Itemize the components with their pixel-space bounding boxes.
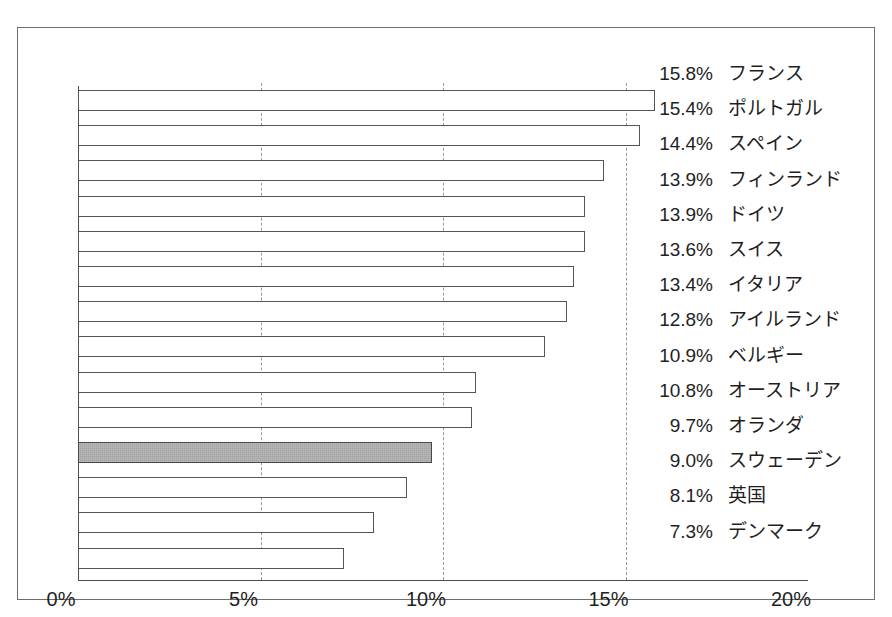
- x-tick-15%: 15%: [588, 588, 628, 611]
- bar: [78, 301, 567, 322]
- chart-figure: 0%5%10%15%20% 15.8%フランス15.4%ポルトガル14.4%スペ…: [0, 0, 892, 617]
- bar-value-label: 14.4%: [618, 126, 713, 161]
- bar-value-label: 8.1%: [618, 478, 713, 513]
- bar: [78, 125, 640, 146]
- bar-category-label: ドイツ: [728, 197, 785, 232]
- bar: [78, 90, 655, 111]
- bar: [78, 160, 604, 181]
- bar-value-label: 13.9%: [618, 197, 713, 232]
- x-tick-10%: 10%: [406, 588, 446, 611]
- bar-highlighted: [78, 442, 432, 463]
- x-tick-5%: 5%: [229, 588, 258, 611]
- bar-value-label: 10.8%: [618, 373, 713, 408]
- bar-value-label: 9.0%: [618, 443, 713, 478]
- bar: [78, 196, 585, 217]
- bar-category-label: フランス: [728, 56, 804, 91]
- bar-value-label: 9.7%: [618, 408, 713, 443]
- bar-value-label: 13.6%: [618, 232, 713, 267]
- bar-category-label: アイルランド: [728, 302, 841, 337]
- bar-category-label: フィンランド: [728, 162, 842, 197]
- bar-value-label: 15.4%: [618, 91, 713, 126]
- bar-category-label: イタリア: [728, 267, 803, 302]
- bar: [78, 512, 374, 533]
- bar-value-label: 13.9%: [618, 162, 713, 197]
- bar-value-label: 12.8%: [618, 302, 713, 337]
- bar-category-label: オーストリア: [728, 373, 841, 408]
- bar-value-label: 10.9%: [618, 338, 713, 373]
- bar-category-label: スペイン: [728, 126, 803, 161]
- bar: [78, 548, 344, 569]
- x-tick-0%: 0%: [47, 588, 76, 611]
- bar-category-label: スイス: [728, 232, 784, 267]
- bar-category-label: ポルトガル: [728, 91, 823, 126]
- chart-frame: 0%5%10%15%20% 15.8%フランス15.4%ポルトガル14.4%スペ…: [17, 27, 875, 600]
- bar-category-label: 英国: [728, 478, 766, 513]
- x-axis-line: [78, 580, 808, 581]
- bar-category-label: オランダ: [728, 408, 804, 443]
- bar: [78, 372, 476, 393]
- x-tick-20%: 20%: [771, 588, 811, 611]
- bar: [78, 477, 407, 498]
- bar-value-label: 15.8%: [618, 56, 713, 91]
- bar-category-label: スウェーデン: [728, 443, 842, 478]
- bar-value-label: 13.4%: [618, 267, 713, 302]
- bar-category-label: ベルギー: [728, 338, 804, 373]
- bar-category-label: デンマーク: [728, 514, 823, 549]
- bar-value-label: 7.3%: [618, 514, 713, 549]
- bar: [78, 231, 585, 252]
- bar: [78, 266, 574, 287]
- bar: [78, 407, 472, 428]
- bar: [78, 336, 545, 357]
